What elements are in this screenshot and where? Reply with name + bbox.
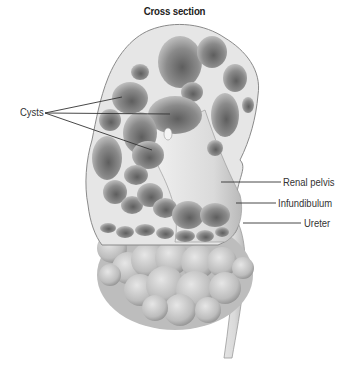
label-cysts: Cysts bbox=[20, 106, 44, 118]
label-infundibulum: Infundibulum bbox=[278, 197, 332, 209]
label-renal-pelvis: Renal pelvis bbox=[283, 176, 334, 188]
label-ureter: Ureter bbox=[304, 217, 330, 229]
